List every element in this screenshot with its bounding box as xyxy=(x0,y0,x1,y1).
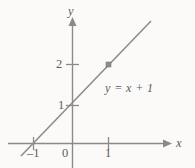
y-tick-label-1: 1 xyxy=(58,99,64,112)
x-tick-label-neg1: –1 xyxy=(27,147,40,160)
x-axis-arrowhead xyxy=(163,140,172,148)
x-tick-label-1: 1 xyxy=(105,147,111,160)
graph-figure: y x 2 1 –1 0 1 y = x + 1 xyxy=(0,0,195,168)
data-point-marker xyxy=(106,62,111,67)
y-axis-arrowhead xyxy=(69,17,77,26)
x-axis-label: x xyxy=(176,137,182,150)
origin-label: 0 xyxy=(62,147,68,160)
equation-label: y = x + 1 xyxy=(105,82,153,94)
y-tick-label-2: 2 xyxy=(56,58,62,71)
y-axis-label: y xyxy=(68,5,74,18)
coordinate-plot xyxy=(0,0,195,168)
